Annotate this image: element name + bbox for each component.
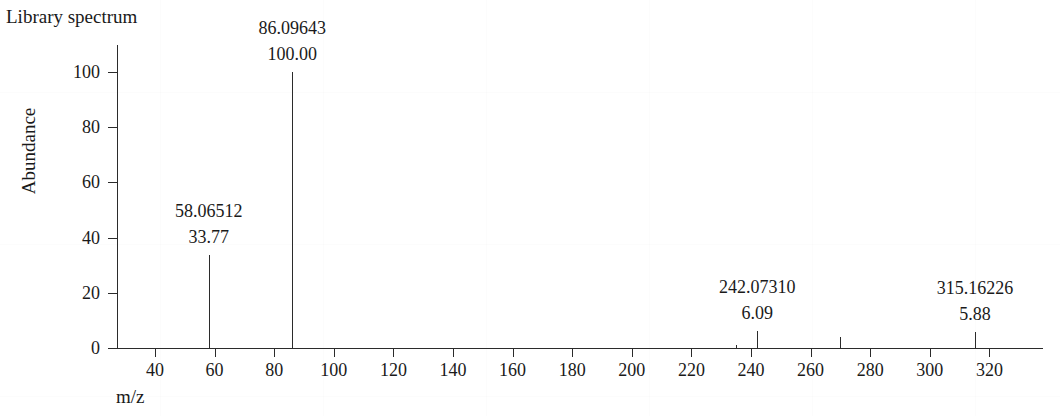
y-tick [108, 238, 117, 239]
x-tick-label: 120 [363, 360, 423, 380]
y-tick-label: 100 [54, 63, 100, 81]
peak-line [292, 72, 293, 348]
y-tick [108, 127, 117, 128]
x-tick-label: 240 [721, 360, 781, 380]
y-tick-label: 0 [54, 339, 100, 357]
peak-line [840, 337, 841, 348]
peak-intensity-label: 6.09 [677, 303, 837, 323]
peak-mass-label: 58.06512 [129, 201, 289, 221]
y-tick-label: 60 [54, 173, 100, 191]
x-tick-label: 260 [781, 360, 841, 380]
y-tick-label: 20 [54, 284, 100, 302]
x-tick [691, 349, 692, 357]
x-tick [989, 349, 990, 357]
peak-intensity-label: 100.00 [212, 44, 372, 64]
x-tick [155, 349, 156, 357]
x-tick [274, 349, 275, 357]
peak-mass-label: 242.07310 [677, 277, 837, 297]
y-tick-label: 80 [54, 118, 100, 136]
x-tick [572, 349, 573, 357]
x-tick [632, 349, 633, 357]
peak-intensity-label: 33.77 [129, 227, 289, 247]
x-tick-label: 220 [661, 360, 721, 380]
peak-line [209, 255, 210, 348]
x-tick-label: 180 [542, 360, 602, 380]
x-tick-label: 200 [602, 360, 662, 380]
x-tick-label: 140 [423, 360, 483, 380]
x-axis-line [117, 348, 1043, 349]
y-tick [108, 348, 117, 349]
peak-line [736, 345, 737, 348]
x-tick [751, 349, 752, 357]
x-tick [930, 349, 931, 357]
peak-mass-label: 86.09643 [212, 18, 372, 38]
page-title: Library spectrum [6, 6, 137, 28]
x-tick-label: 80 [244, 360, 304, 380]
peak-mass-label: 315.16226 [895, 278, 1055, 298]
y-tick [108, 182, 117, 183]
peak-intensity-label: 5.88 [895, 304, 1055, 324]
y-tick [108, 293, 117, 294]
x-tick [870, 349, 871, 357]
peak-line [757, 331, 758, 348]
x-axis-title: m/z [116, 386, 145, 408]
peak-line [975, 332, 976, 348]
x-tick [334, 349, 335, 357]
x-tick [215, 349, 216, 357]
x-tick-label: 60 [185, 360, 245, 380]
x-tick-label: 280 [840, 360, 900, 380]
x-tick [453, 349, 454, 357]
x-tick-label: 300 [900, 360, 960, 380]
y-axis-line [117, 45, 118, 349]
x-tick-label: 100 [304, 360, 364, 380]
x-tick-label: 40 [125, 360, 185, 380]
x-tick-label: 320 [959, 360, 1019, 380]
x-tick [811, 349, 812, 357]
y-tick-label: 40 [54, 229, 100, 247]
y-axis-title: Abundance [18, 91, 40, 211]
x-tick [393, 349, 394, 357]
x-tick [513, 349, 514, 357]
y-tick [108, 72, 117, 73]
x-tick-label: 160 [483, 360, 543, 380]
